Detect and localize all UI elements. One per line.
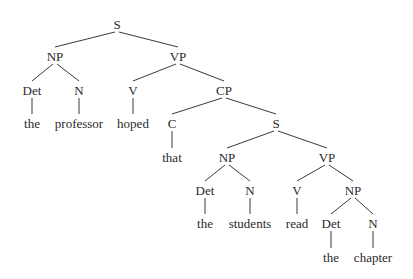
tree-leaf-word: hoped [117,117,149,130]
tree-leaf-word: that [162,151,182,164]
tree-edge [226,98,276,114]
tree-edge [57,64,79,81]
tree-node-vp: VP [170,50,187,63]
tree-leaf-word: the [197,217,213,230]
syntax-tree: SNPVPDetNVCPtheprofessorhopedCSthatNPVPD… [0,0,413,279]
tree-node-np: NP [345,184,362,197]
tree-edge [133,64,176,81]
tree-edge [278,131,327,148]
tree-edge [180,64,224,81]
tree-node-np: NP [219,151,236,164]
tree-node-det: Det [196,184,215,197]
tree-leaf-word: chapter [354,251,392,264]
tree-node-det: Det [23,84,42,97]
tree-edge [229,165,250,181]
tree-node-vp: VP [319,151,336,164]
tree-node-v: V [128,84,137,97]
tree-node-det: Det [322,217,341,230]
tree-node-cp: CP [216,84,232,97]
tree-edge [119,32,178,47]
tree-leaf-word: students [229,217,272,230]
tree-edge [227,131,274,148]
tree-node-n: N [245,184,254,197]
tree-edge [205,165,225,181]
tree-edge [297,165,325,181]
tree-edge [355,198,373,214]
tree-node-s: S [272,117,279,130]
tree-edge [172,98,222,114]
tree-edges [0,0,413,279]
tree-leaf-word: the [323,251,339,264]
tree-node-n: N [74,84,83,97]
tree-leaf-word: the [24,117,40,130]
tree-node-n: N [368,217,377,230]
tree-leaf-word: read [286,217,308,230]
tree-node-c: C [168,117,177,130]
tree-edge [32,64,53,81]
tree-node-np: NP [47,50,64,63]
tree-node-v: V [292,184,301,197]
tree-edge [331,198,351,214]
tree-node-s: S [113,18,120,31]
tree-edge [55,32,115,47]
tree-edge [329,165,353,181]
tree-leaf-word: professor [55,117,103,130]
